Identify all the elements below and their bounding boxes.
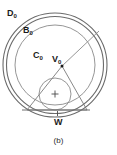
label-C0: C0	[33, 51, 43, 61]
label-D0: D0	[7, 9, 17, 19]
label-D0-base: D	[7, 8, 14, 18]
figure-container: D0 B0 C0 V0 W (b)	[0, 0, 117, 155]
circle-D0	[3, 13, 107, 117]
label-V0-subscript: 0	[58, 59, 61, 65]
label-B0-base: B	[23, 25, 30, 35]
geometry-diagram	[0, 0, 117, 155]
circle-B0	[7, 17, 104, 114]
label-V0: V0	[52, 55, 61, 65]
label-C0-base: C	[33, 50, 40, 60]
label-C0-subscript: 0	[40, 55, 43, 61]
label-B0: B0	[23, 26, 33, 36]
label-W: W	[54, 118, 63, 127]
center-cross-icon	[52, 91, 59, 98]
radius-line	[62, 31, 99, 66]
label-D0-subscript: 0	[14, 13, 17, 19]
label-W-base: W	[54, 117, 63, 127]
triangle-wedge	[27, 66, 87, 110]
label-B0-subscript: 0	[30, 30, 33, 36]
figure-caption: (b)	[0, 136, 117, 145]
